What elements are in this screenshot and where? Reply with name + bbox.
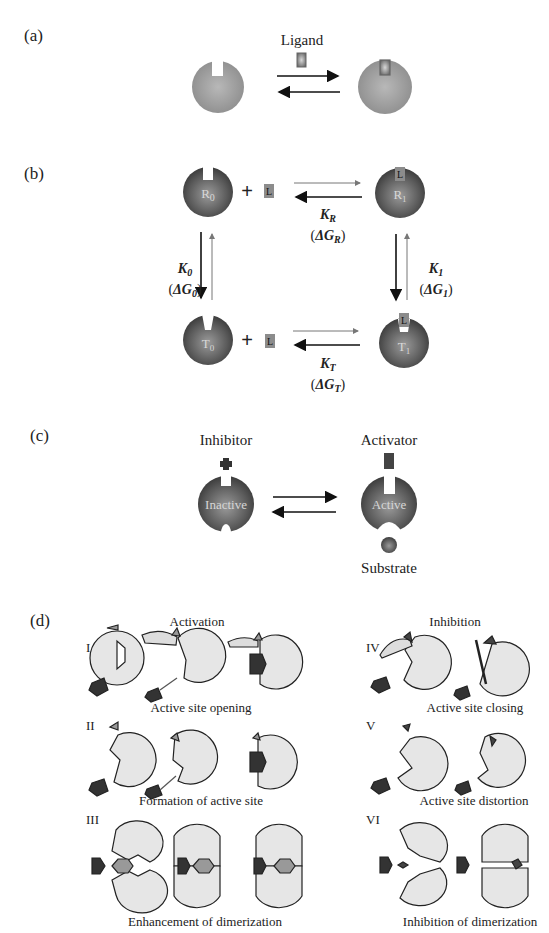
row-numeral-I: I [86,640,90,656]
inhibitor-label: Inhibitor [190,432,262,449]
svg-text:L: L [266,186,272,197]
row-numeral-V: V [366,718,375,734]
panel-label-b: (b) [24,164,44,184]
svg-text:+: + [241,180,253,202]
caption-row-II: Formation of active site [126,793,276,809]
row-numeral-II: II [86,718,95,734]
caption-row-III: Enhancement of dimerization [120,914,290,930]
caption-row-VI: Inhibition of dimerization [390,914,549,930]
ligand-label: Ligand [271,32,333,49]
panel-d-diagram [89,625,529,913]
inhibitor-icon [220,458,232,470]
constant-KR: KR (ΔGR) [300,206,356,248]
row-III-cells [92,821,302,913]
panel-a-diagram [192,53,412,114]
row-I-cells [89,625,303,702]
substrate-icon [381,537,397,553]
svg-text:Inactive: Inactive [205,497,247,512]
receptor-bound-icon [358,60,412,114]
caption-row-IV: Active site closing [410,700,540,716]
caption-row-I: Active site opening [136,700,266,716]
panel-b-diagram: + + [183,166,429,368]
substrate-label: Substrate [350,560,428,577]
row-numeral-III: III [86,812,99,828]
row-numeral-VI: VI [366,812,380,828]
row-VI-cells [380,823,528,908]
inhibition-title: Inhibition [420,614,490,630]
row-II-cells [89,722,297,799]
ligand-icon [297,53,306,67]
panel-label-a: (a) [24,26,43,46]
svg-text:L: L [397,169,403,180]
panel-label-d: (d) [30,611,50,631]
svg-text:L: L [401,315,407,326]
svg-text:L: L [267,336,273,347]
row-numeral-IV: IV [366,640,380,656]
activation-title: Activation [162,614,232,630]
constant-KT: KT (ΔGT) [300,355,356,397]
row-V-cells [371,724,525,795]
activator-icon [384,453,394,469]
receptor-unbound-icon [192,60,244,113]
row-IV-cells [371,632,529,700]
constant-K1: K1 (ΔG1) [410,260,462,302]
svg-text:+: + [241,329,253,351]
constant-K0: K0 (ΔG0) [160,260,210,302]
panel-label-c: (c) [30,426,49,446]
activator-label: Activator [352,432,426,449]
caption-row-V: Active site distortion [404,793,544,809]
svg-text:Active: Active [372,497,407,512]
